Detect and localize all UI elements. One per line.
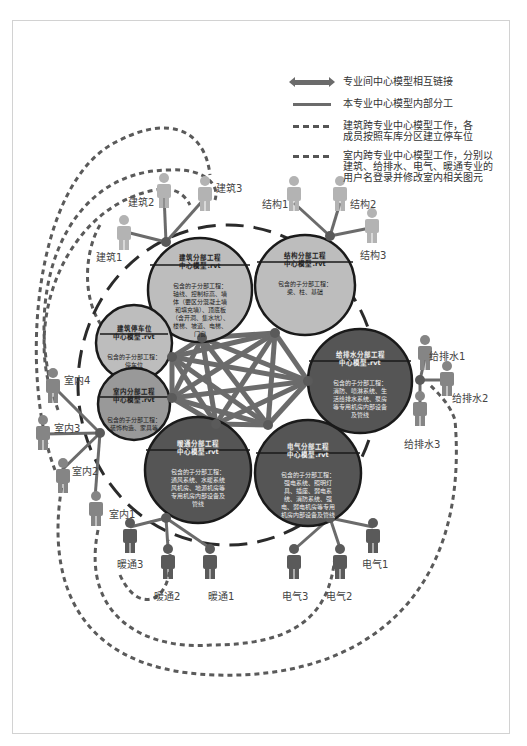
person-label: 室内4 [64,372,90,387]
legend-item-intra-link: 本专业中心模型内部分工 [293,98,523,112]
person-label: 暖通3 [117,556,143,571]
hub-hvac-label: 暖通分部工程 中心模型.rvt 包含的子分部工程： 通风系统、水暖系统 风机房、… [148,432,248,516]
person-label: 电气2 [326,588,352,603]
inter-hub-links [172,333,308,425]
person-label: 电气3 [282,588,308,603]
dashed-line-icon [293,120,333,134]
person-label: 给排水2 [452,390,488,405]
hub-plumbing-label: 给排水分部工程 中心模型.rvt 包含的子分部工程： 消防、喷淋系统、生 活给排… [310,343,410,427]
person-label: 电气1 [362,556,388,571]
person-label: 暖通2 [154,588,180,603]
solid-line-icon [293,98,333,112]
hub-interior-label: 室内分部工程 中心模型.rvt 包含的子分部工程： 装饰构造、家具等 [100,380,168,440]
double-arrow-icon [293,76,333,90]
person-label: 室内1 [109,506,135,521]
person-label: 室内3 [54,420,80,435]
legend-item-arch-cross: 建筑跨专业中心模型工作，各 成员按照车库分区建立停车位 [293,120,523,142]
hub-struct-label: 结构分部工程 中心模型.rvt 包含的子分部工程： 梁、柱、基础 [258,244,352,304]
legend-item-interior-cross: 室内跨专业中心模型工作，分别以 建筑、给排水、电气、暖通专业的 用户名登录并修改… [293,150,523,183]
legend: 专业间中心模型相互链接 本专业中心模型内部分工 建筑跨专业中心模型工作，各 成员… [293,76,523,191]
person-label: 建筑1 [96,249,122,264]
person-label: 结构2 [350,196,376,211]
person-label: 建筑2 [128,194,154,209]
legend-item-inter-link: 专业间中心模型相互链接 [293,76,523,90]
person-label: 建筑3 [216,180,242,195]
person-label: 室内2 [72,463,98,478]
hub-parking-label: 建筑停车位 中心模型.rvt 包含的子分部工程： 停车位 [100,317,168,377]
hub-elec-label: 电气分部工程 中心模型.rvt 包含的子分部工程： 强电系统、照明灯 具、插座、… [258,435,358,527]
person-label: 暖通1 [208,588,234,603]
person-label: 给排水3 [404,436,440,451]
person-label: 结构3 [360,247,386,262]
person-label: 给排水1 [429,348,465,363]
person-label: 结构1 [262,196,288,211]
dashed-line-icon [293,150,333,164]
